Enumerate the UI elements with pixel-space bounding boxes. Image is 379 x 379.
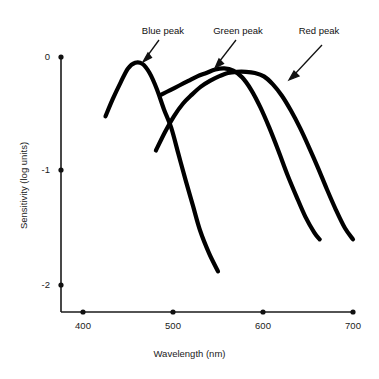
y-tick-dot--1: [58, 167, 63, 172]
annotation-green-peak: Green peak: [200, 25, 276, 36]
annotation-blue-peak: Blue peak: [128, 25, 198, 36]
y-tick-dot--2: [58, 282, 63, 287]
x-tick-dot-500: [170, 309, 175, 314]
y-tick-label-0: 0: [30, 51, 50, 62]
x-axis-title: Wavelength (nm): [0, 348, 379, 359]
y-tick-dot-0: [58, 54, 63, 59]
y-tick-label-2: -2: [30, 279, 50, 290]
x-tick-dot-400: [80, 309, 85, 314]
axes-group: [61, 57, 354, 312]
arrow-blue-peak: [143, 40, 159, 62]
arrow-red-peak: [289, 45, 322, 80]
annotation-red-peak: Red peak: [286, 25, 352, 36]
data-curves: [106, 62, 354, 271]
y-axis-title: Sensitivity (log units): [18, 101, 29, 271]
x-tick-label-500: 500: [153, 320, 193, 331]
x-tick-label-400: 400: [63, 320, 103, 331]
y-tick-label-1: -1: [30, 164, 50, 175]
x-tick-dot-600: [260, 309, 265, 314]
arrow-green-peak: [215, 40, 236, 68]
x-tick-label-600: 600: [243, 320, 283, 331]
x-tick-label-700: 700: [333, 320, 373, 331]
x-tick-dot-700: [350, 309, 355, 314]
curve-green-peak: [161, 68, 319, 239]
